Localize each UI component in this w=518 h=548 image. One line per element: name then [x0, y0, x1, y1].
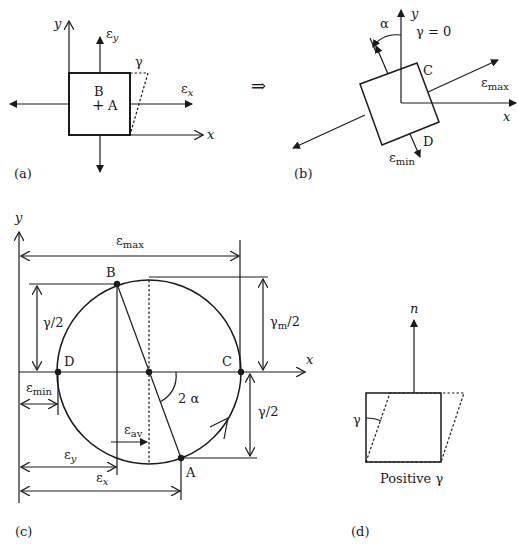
gamma-half-left-label: γ/2	[43, 315, 63, 330]
panel-a: y x γ εy εx B + A (a)	[10, 16, 215, 181]
emax-label: εmax	[116, 233, 144, 250]
element-square	[366, 393, 441, 462]
point-b-label: B	[106, 265, 116, 280]
alpha-angle-arc	[373, 35, 401, 47]
panel-d-label: (d)	[351, 524, 369, 539]
point-a-dot	[178, 455, 184, 461]
point-a-label: A	[107, 98, 118, 113]
x-axis-label: x	[503, 109, 511, 124]
y-axis-label: y	[53, 16, 62, 31]
x-axis-label: x	[207, 127, 215, 142]
positive-gamma-caption: Positive γ	[380, 471, 443, 486]
strain-min-label: εmin	[389, 150, 415, 167]
alpha-label: α	[380, 16, 389, 31]
point-d-label: D	[423, 134, 433, 149]
principal-normal-arrow	[376, 46, 388, 74]
shear-gamma-label: γ	[135, 54, 143, 69]
gamma-m-half-label: γm/2	[270, 314, 300, 331]
strain-min-arrow	[410, 134, 420, 157]
emin-label: εmin	[26, 380, 52, 397]
point-c-dot	[238, 369, 244, 375]
implies-arrow: ⇒	[251, 75, 266, 96]
panel-d: n γ Positive γ (d)	[351, 301, 464, 539]
gamma-half-right-label: γ/2	[258, 404, 278, 419]
rotation-direction-chevron	[210, 418, 228, 439]
two-alpha-arc	[160, 372, 176, 402]
point-a-label: A	[185, 465, 196, 480]
gamma-zero-label: γ = 0	[416, 24, 451, 39]
point-d-dot	[55, 369, 61, 375]
strain-max-label: εmax	[481, 75, 509, 92]
center-dot	[146, 369, 152, 375]
normal-label: n	[410, 301, 418, 316]
panel-a-label: (a)	[14, 166, 32, 181]
panel-c-label: (c)	[15, 524, 32, 539]
ey-label: εy	[64, 447, 77, 464]
strain-max-arrow-opposite	[293, 115, 365, 148]
gamma-label: γ	[353, 412, 361, 427]
two-alpha-label: 2 α	[178, 391, 199, 406]
point-d-label: D	[64, 354, 74, 369]
eav-label: εav	[124, 422, 143, 439]
point-c-label: C	[222, 354, 232, 369]
panel-b: y x εmax εmin α γ = 0 C D (b)	[293, 6, 516, 181]
y-axis-label: y	[410, 6, 419, 21]
strain-y-label: εy	[106, 26, 119, 43]
y-axis-label: y	[14, 210, 23, 225]
panel-b-label: (b)	[294, 166, 312, 181]
panel-c: y x εmax γ/2 γm/2 γ/2 εmin εy εx εav	[14, 210, 314, 539]
mohr-circle-strain-figure: y x γ εy εx B + A (a) ⇒ y x εmax εmin α …	[0, 0, 518, 548]
ex-label: εx	[96, 470, 109, 487]
point-b-dot	[114, 281, 120, 287]
gamma-angle-arc	[366, 418, 381, 421]
center-mark: +	[92, 96, 105, 114]
strain-x-label: εx	[181, 81, 194, 98]
sheared-parallelogram-dashed	[366, 393, 464, 462]
point-c-label: C	[423, 63, 433, 78]
x-axis-label: x	[306, 352, 314, 367]
